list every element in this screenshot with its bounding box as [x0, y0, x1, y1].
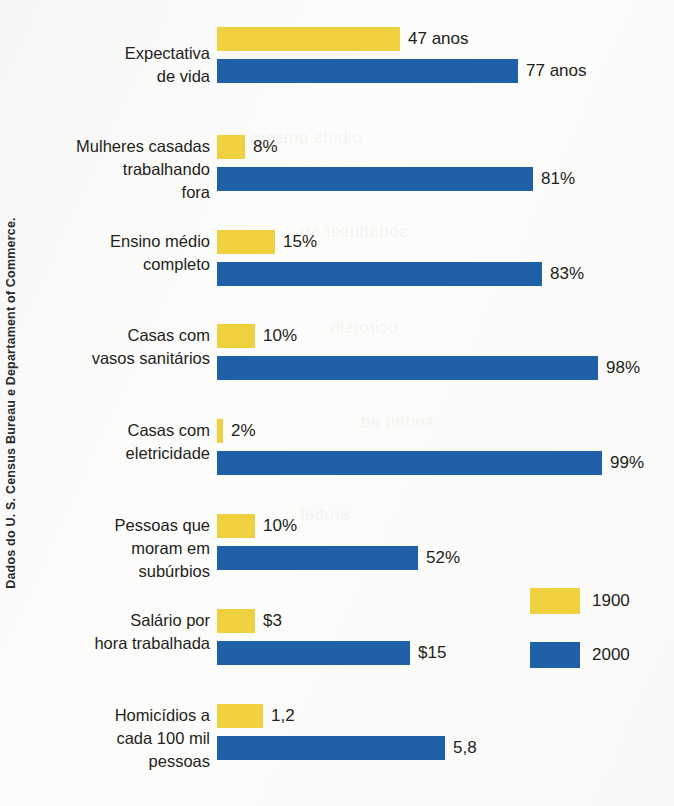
bar-value-label: 10% — [263, 326, 297, 346]
bar-value-label: 52% — [426, 548, 460, 568]
bar-value-label: 81% — [541, 169, 575, 189]
row-bars: 15%83% — [217, 230, 584, 286]
bar-value-label: 1,2 — [271, 706, 295, 726]
bar-rect-1900[interactable] — [217, 135, 245, 159]
row-label: Expectativa de vida — [10, 42, 210, 88]
bar-value-label: 8% — [253, 137, 278, 157]
bar-rect-2000[interactable] — [217, 262, 542, 286]
bar-rect-2000[interactable] — [217, 546, 418, 570]
bar-rect-2000[interactable] — [217, 451, 602, 475]
bar-value-label: 98% — [606, 358, 640, 378]
legend-item-1900[interactable]: 1900 — [530, 588, 630, 614]
bar-rect-2000[interactable] — [217, 59, 518, 83]
legend-swatch-1900 — [530, 588, 580, 614]
bar-2000[interactable]: 98% — [217, 356, 640, 380]
legend-swatch-2000 — [530, 642, 580, 668]
bar-1900[interactable]: $3 — [217, 609, 446, 633]
bar-value-label: 2% — [231, 421, 256, 441]
bar-rect-1900[interactable] — [217, 419, 223, 443]
bar-1900[interactable]: 10% — [217, 324, 640, 348]
bar-rect-2000[interactable] — [217, 167, 533, 191]
bar-rect-1900[interactable] — [217, 27, 400, 51]
row-bars: 10%52% — [217, 514, 460, 570]
row-bars: $3$15 — [217, 609, 446, 665]
bar-rect-1900[interactable] — [217, 230, 275, 254]
bar-1900[interactable]: 15% — [217, 230, 584, 254]
bar-2000[interactable]: 83% — [217, 262, 584, 286]
bar-value-label: 77 anos — [526, 61, 587, 81]
bar-1900[interactable]: 47 anos — [217, 27, 587, 51]
row-label: Casas com vasos sanitários — [10, 324, 210, 370]
chart-legend: 19002000 — [530, 588, 630, 668]
row-label: Casas com eletricidade — [10, 419, 210, 465]
row-bars: 1,25,8 — [217, 704, 477, 760]
bar-2000[interactable]: 81% — [217, 167, 575, 191]
bar-value-label: 5,8 — [453, 738, 477, 758]
bar-rect-2000[interactable] — [217, 736, 445, 760]
bar-2000[interactable]: 5,8 — [217, 736, 477, 760]
bar-2000[interactable]: 77 anos — [217, 59, 587, 83]
row-label: Pessoas que moram em subúrbios — [10, 514, 210, 583]
bar-rect-1900[interactable] — [217, 324, 255, 348]
bar-2000[interactable]: $15 — [217, 641, 446, 665]
bar-value-label: 47 anos — [408, 29, 469, 49]
row-bars: 47 anos77 anos — [217, 27, 587, 83]
bar-2000[interactable]: 99% — [217, 451, 644, 475]
bar-value-label: $15 — [418, 643, 446, 663]
bar-2000[interactable]: 52% — [217, 546, 460, 570]
bar-value-label: $3 — [263, 611, 282, 631]
bar-rect-1900[interactable] — [217, 609, 255, 633]
legend-label: 1900 — [592, 591, 630, 611]
legend-label: 2000 — [592, 645, 630, 665]
bar-rect-2000[interactable] — [217, 356, 598, 380]
row-label: Salário por hora trabalhada — [10, 609, 210, 655]
bar-1900[interactable]: 8% — [217, 135, 575, 159]
legend-item-2000[interactable]: 2000 — [530, 642, 630, 668]
bar-rect-2000[interactable] — [217, 641, 410, 665]
bar-rect-1900[interactable] — [217, 514, 255, 538]
chart-page: oibuts omsemsodatluser soocirotsihsodad … — [0, 0, 674, 806]
row-label: Homicídios a cada 100 mil pessoas — [10, 704, 210, 773]
row-bars: 2%99% — [217, 419, 644, 475]
row-label: Mulheres casadas trabalhando fora — [10, 135, 210, 204]
row-bars: 8%81% — [217, 135, 575, 191]
bar-rect-1900[interactable] — [217, 704, 263, 728]
bar-1900[interactable]: 1,2 — [217, 704, 477, 728]
bar-value-label: 83% — [550, 264, 584, 284]
source-credit: Dados do U. S. Census Bureau e Departame… — [0, 0, 22, 806]
bar-value-label: 15% — [283, 232, 317, 252]
row-label: Ensino médio completo — [10, 230, 210, 276]
bar-1900[interactable]: 2% — [217, 419, 644, 443]
bar-value-label: 10% — [263, 516, 297, 536]
bar-1900[interactable]: 10% — [217, 514, 460, 538]
bar-value-label: 99% — [610, 453, 644, 473]
row-bars: 10%98% — [217, 324, 640, 380]
